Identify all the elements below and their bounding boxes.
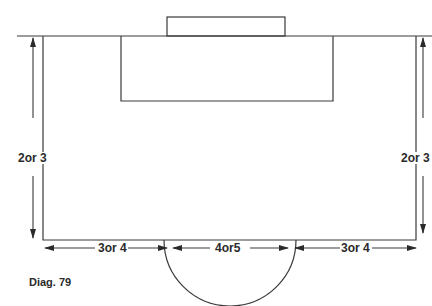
area-rectangle xyxy=(43,36,416,240)
bottom-center-label: 4or5 xyxy=(214,242,241,254)
bottom-right-label: 3or 4 xyxy=(340,242,371,254)
penalty-box xyxy=(121,36,333,101)
goal xyxy=(167,17,285,36)
bottom-left-label: 3or 4 xyxy=(97,242,128,254)
right-height-label: 2or 3 xyxy=(400,152,431,164)
diagram-caption: Diag. 79 xyxy=(29,276,71,288)
pitch-diagram xyxy=(0,0,432,306)
left-height-label: 2or 3 xyxy=(17,152,48,164)
